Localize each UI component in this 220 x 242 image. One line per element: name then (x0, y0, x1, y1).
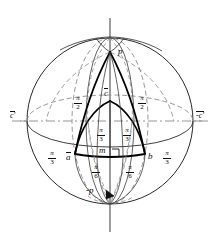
arc-label-mid-right: π 3 (123, 127, 131, 143)
overbar-c-prime: c' (10, 112, 15, 120)
point-label-north-pole: p (118, 47, 123, 56)
thin-arc-p-to-b-inner (110, 52, 123, 154)
arc-label-lower-right: π 6 (126, 164, 134, 180)
arc-label-upper-left: π 2 (74, 95, 82, 111)
arc-label-lower-left: π 6 (92, 164, 100, 180)
axis-label-left-c-prime: c' (10, 112, 15, 120)
point-label-apex-c: c (104, 89, 108, 98)
overbar-minus-c-prime: -c' (196, 112, 204, 120)
right-angle-marker-icon (112, 149, 119, 156)
arc-label-outer-left: π 3 (48, 150, 56, 166)
axis-label-right-minus-c-prime: -c' (196, 112, 204, 120)
arc-label-outer-right: π 3 (163, 150, 171, 166)
arc-label-upper-right: π 2 (138, 95, 146, 111)
point-label-south-pole: -p (86, 186, 94, 195)
point-label-vertex-b: b (148, 152, 153, 161)
arc-label-mid-left: π 3 (97, 127, 105, 143)
polar-cap-arc-left (60, 37, 110, 50)
overbar-a: a (66, 153, 71, 162)
point-label-vertex-a: a (66, 153, 71, 162)
overbar-c: c (104, 89, 108, 98)
point-label-foot-m: m (99, 146, 106, 155)
spherical-triangle-figure: p -p c m a b c' -c' π 2 π 2 π 3 π 3 π 3 (0, 0, 220, 242)
sphere-diagram (0, 0, 220, 242)
